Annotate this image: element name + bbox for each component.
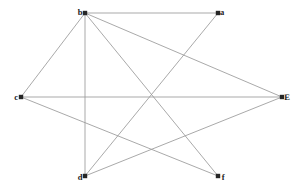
edge-b-c	[21, 13, 85, 97]
node-label-f: f	[222, 173, 225, 182]
edge-c-f	[21, 97, 218, 176]
node-label-d: d	[78, 173, 83, 182]
graph-canvas: bacEdf	[0, 0, 302, 195]
node-label-E: E	[284, 93, 289, 102]
node-label-c: c	[14, 93, 18, 102]
edge-d-E	[85, 97, 282, 176]
edges-layer	[21, 13, 282, 176]
node-label-a: a	[220, 8, 224, 17]
graph-svg	[0, 0, 302, 195]
node-label-b: b	[78, 8, 83, 17]
